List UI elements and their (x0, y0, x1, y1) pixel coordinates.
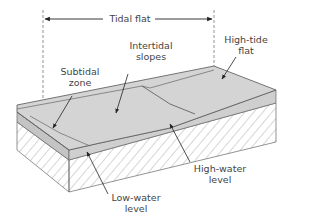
label-intertidal-slopes: Intertidal slopes (123, 40, 179, 62)
label-high-water-level: High-water level (188, 163, 252, 185)
label-low-water-level: Low-water level (106, 192, 166, 214)
label-high-tide-flat: High-tide flat (218, 34, 274, 56)
label-tidal-flat: Tidal flat (104, 13, 156, 24)
label-subtidal-zone: Subtidal zone (55, 66, 105, 88)
